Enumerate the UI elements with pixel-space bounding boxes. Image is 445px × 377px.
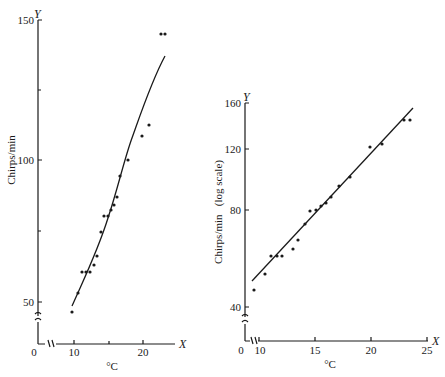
left-y-letter: Y bbox=[34, 7, 42, 21]
right-x-axis bbox=[245, 337, 428, 344]
left-chart: Y X 150 100 50 0 10 20 °C Chirps/min bbox=[5, 7, 187, 372]
right-data-points bbox=[252, 118, 411, 291]
right-y-tick-160: 160 bbox=[225, 97, 242, 109]
left-x-tick-0: 0 bbox=[31, 346, 37, 358]
left-y-title: Chirps/min bbox=[5, 135, 17, 185]
left-x-axis bbox=[38, 340, 175, 347]
right-y-tick-120: 120 bbox=[225, 143, 242, 155]
right-x-tick-10: 10 bbox=[255, 344, 267, 356]
left-x-tick-20: 20 bbox=[138, 346, 150, 358]
right-x-tick-15: 15 bbox=[310, 344, 322, 356]
right-x-tick-0: 0 bbox=[238, 344, 244, 356]
left-x-letter: X bbox=[178, 337, 187, 351]
right-x-tick-20: 20 bbox=[366, 344, 378, 356]
right-y-title: Chirps/min (log scale) bbox=[212, 160, 225, 264]
left-y-tick-100: 100 bbox=[18, 154, 35, 166]
left-y-tick-150: 150 bbox=[18, 14, 35, 26]
chirps-figure: Y X 150 100 50 0 10 20 °C Chirps/min bbox=[0, 0, 445, 377]
left-y-tick-50: 50 bbox=[23, 296, 35, 308]
right-chart: Y X 160 120 80 40 0 10 15 20 25 °C Chirp… bbox=[212, 90, 440, 370]
left-fit-curve bbox=[72, 56, 165, 306]
left-x-title: °C bbox=[106, 360, 118, 372]
right-y-letter: Y bbox=[243, 90, 251, 104]
right-x-tick-25: 25 bbox=[422, 344, 434, 356]
right-y-tick-80: 80 bbox=[230, 204, 242, 216]
right-y-tick-40: 40 bbox=[230, 301, 242, 313]
left-data-points bbox=[70, 32, 166, 313]
right-y-axis bbox=[242, 103, 248, 341]
left-x-tick-10: 10 bbox=[69, 346, 81, 358]
right-x-title: °C bbox=[324, 358, 336, 370]
left-y-axis bbox=[35, 20, 41, 344]
